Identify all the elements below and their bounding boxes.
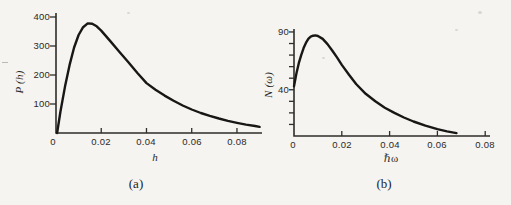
scan-artifact	[127, 12, 130, 14]
x-tick-label-0: 0	[43, 137, 63, 147]
x-tick-label-0: 0	[283, 140, 303, 150]
y-tick-label-300: 300	[25, 41, 50, 51]
y-tick-label-400: 400	[25, 12, 50, 22]
caption-b: (b)	[364, 177, 404, 191]
axes-a	[56, 13, 262, 133]
x-axis-label-a: h	[145, 151, 165, 163]
y-axis-label-b: N (ω)	[262, 65, 274, 105]
scan-artifact	[322, 57, 325, 59]
x-tick-label-0.06: 0.06	[177, 137, 207, 147]
caption-a: (a)	[116, 177, 156, 191]
x-tick-label-0.02: 0.02	[327, 140, 357, 150]
scan-artifact	[455, 29, 458, 31]
x-axis-label-b: ℏω	[371, 152, 411, 164]
x-tick-label-0.02: 0.02	[86, 137, 116, 147]
y-tick-label-100: 100	[25, 99, 50, 109]
curve-a	[57, 23, 260, 133]
x-tick-label-0.06: 0.06	[422, 140, 452, 150]
x-tick-label-0.04: 0.04	[375, 140, 405, 150]
scan-artifact	[478, 11, 482, 14]
y-tick-label-90: 90	[268, 27, 289, 37]
y-axis-label-a: P (h)	[13, 62, 25, 102]
x-tick-label-0.08: 0.08	[222, 137, 252, 147]
scan-artifact	[2, 62, 8, 63]
figure-scan: 400 300 200 100 0 0.02 0.04 0.06 0.08 P …	[0, 0, 511, 205]
axes-b	[294, 29, 490, 136]
plots-canvas	[0, 0, 511, 205]
x-tick-label-0.08: 0.08	[470, 140, 500, 150]
x-tick-label-0.04: 0.04	[131, 137, 161, 147]
y-tick-label-200: 200	[25, 70, 50, 80]
curve-b	[294, 35, 457, 133]
